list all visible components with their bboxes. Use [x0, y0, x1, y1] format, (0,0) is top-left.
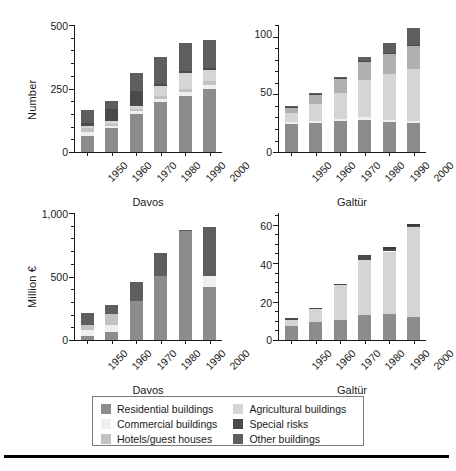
ytick-mark-davos-million-euro-400: [71, 289, 74, 290]
bar-segment-davos-million-euro-1950-other-buildings: [81, 313, 94, 324]
ytick-mark-davos-number-250: [69, 89, 74, 90]
xtick-mark-davos-million-euro-2000: [210, 341, 211, 344]
bar-galtuer-million-euro-1980: [358, 213, 371, 340]
bar-segment-davos-number-2000-hotels-guest-houses: [203, 81, 216, 85]
bar-segment-galtuer-million-euro-1990-special-risks: [383, 249, 396, 251]
bar-segment-galtuer-number-1980-residential-buildings: [358, 120, 371, 152]
bottom-rule: [4, 455, 449, 458]
xtick-davos-number-1960: 1960: [129, 159, 154, 184]
panel-davos-million-euro: Million € 1,000 500 0 Davos 195019601970…: [0, 190, 226, 380]
bar-davos-number-2000: [203, 25, 216, 152]
bar-segment-davos-number-1980-hotels-guest-houses: [154, 96, 167, 99]
legend-item-hotels: Hotels/guest houses: [101, 433, 217, 445]
bar-segment-galtuer-number-2000-residential-buildings: [407, 123, 420, 152]
bar-segment-davos-million-euro-1990-other-buildings: [179, 230, 192, 232]
bar-davos-million-euro-1950: [81, 213, 94, 340]
bar-segment-galtuer-million-euro-1950-residential-buildings: [285, 326, 298, 340]
xtick-galtuer-million-euro-1990: 1990: [406, 347, 431, 372]
bar-galtuer-number-2000: [407, 25, 420, 152]
ytick-mark-galtuer-million-euro-0: [273, 340, 278, 341]
ytick-mark-galtuer-number-90: [275, 48, 278, 49]
ytick-mark-galtuer-million-euro-15: [275, 311, 278, 312]
ytick-mark-davos-million-euro-1000: [69, 213, 74, 214]
bar-davos-million-euro-2000: [203, 213, 216, 340]
xtick-mark-galtuer-million-euro-1960: [316, 341, 317, 344]
xtick-mark-davos-million-euro-1960: [112, 341, 113, 344]
bar-segment-davos-number-1970-special-risks: [130, 91, 143, 106]
legend-swatch-hotels-icon: [101, 434, 111, 444]
bar-segment-galtuer-million-euro-2000-hotels-guest-houses: [407, 227, 420, 316]
panel-galtuer-number: 100 50 0 Galtür 195019601970198019902000: [226, 0, 453, 190]
bar-segment-galtuer-number-2000-special-risks: [407, 45, 420, 46]
bar-davos-number-1990: [179, 25, 192, 152]
bar-segment-galtuer-number-1980-other-buildings: [358, 57, 371, 60]
ytick-mark-galtuer-number-70: [275, 71, 278, 72]
bar-segment-davos-number-2000-agricultural-buildings: [203, 70, 216, 82]
bar-galtuer-number-1950: [285, 25, 298, 152]
bar-davos-number-1980: [154, 25, 167, 152]
bar-segment-davos-number-1980-agricultural-buildings: [154, 86, 167, 96]
legend-label-agricultural: Agricultural buildings: [249, 403, 346, 415]
ytick-mark-galtuer-number-60: [275, 83, 278, 84]
xtick-mark-davos-million-euro-1990: [185, 341, 186, 344]
ytick-davos-million-1000: 1,000: [16, 209, 68, 220]
bar-segment-galtuer-number-1970-special-risks: [334, 78, 347, 79]
xtick-mark-davos-million-euro-1950: [87, 341, 88, 344]
bar-segment-galtuer-number-1950-agricultural-buildings: [285, 108, 298, 113]
bar-segment-galtuer-number-1950-hotels-guest-houses: [285, 113, 298, 122]
bar-segment-galtuer-number-1980-commercial-buildings: [358, 117, 371, 119]
ytick-galtuer-million-20: 20: [232, 298, 272, 309]
legend-label-other: Other buildings: [249, 433, 320, 445]
plot-area-galtuer-number: [279, 25, 426, 152]
bar-segment-davos-million-euro-1960-other-buildings: [105, 305, 118, 314]
bar-segment-davos-number-1980-commercial-buildings: [154, 99, 167, 102]
ytick-davos-million-500: 500: [16, 272, 68, 283]
bar-segment-galtuer-number-1950-commercial-buildings: [285, 122, 298, 124]
plot-area-davos-million-euro: [75, 213, 222, 340]
bar-segment-davos-number-1960-commercial-buildings: [105, 126, 118, 128]
ytick-mark-davos-number-400: [71, 50, 74, 51]
bar-segment-davos-number-1970-commercial-buildings: [130, 111, 143, 114]
ytick-mark-galtuer-million-euro-10: [275, 321, 278, 322]
ytick-mark-davos-million-euro-0: [69, 340, 74, 341]
bar-segment-galtuer-number-1970-commercial-buildings: [334, 119, 347, 121]
legend-item-agricultural: Agricultural buildings: [233, 403, 346, 415]
bar-segment-galtuer-number-1960-other-buildings: [309, 93, 322, 94]
bar-segment-galtuer-million-euro-1970-special-risks: [334, 284, 347, 285]
bar-segment-davos-number-1990-agricultural-buildings: [179, 73, 192, 89]
ytick-davos-million-0: 0: [16, 335, 68, 346]
ytick-galtuer-million-60: 60: [232, 221, 272, 232]
bar-segment-galtuer-number-1990-commercial-buildings: [383, 120, 396, 122]
ytick-davos-number-0: 0: [28, 147, 68, 158]
bar-segment-davos-number-1970-hotels-guest-houses: [130, 109, 143, 112]
bar-segment-davos-million-euro-1980-residential-buildings: [154, 276, 167, 340]
bar-segment-davos-number-1990-other-buildings: [179, 43, 192, 71]
ytick-mark-galtuer-million-euro-55: [275, 234, 278, 235]
xtick-davos-million-euro-1970: 1970: [153, 347, 178, 372]
ytick-mark-davos-million-euro-700: [71, 251, 74, 252]
xtick-galtuer-number-1950: 1950: [308, 159, 333, 184]
bar-segment-davos-number-1950-commercial-buildings: [81, 132, 94, 136]
bar-segment-galtuer-number-1970-hotels-guest-houses: [334, 93, 347, 118]
bar-segment-galtuer-million-euro-1990-hotels-guest-houses: [383, 252, 396, 315]
xtick-mark-galtuer-number-1990: [389, 153, 390, 156]
bar-segment-davos-number-1950-other-buildings: [81, 110, 94, 123]
axis-line-x-galtuer-number: [278, 152, 426, 153]
xtick-mark-galtuer-million-euro-1950: [291, 341, 292, 344]
legend-items: Residential buildings Agricultural build…: [101, 403, 346, 445]
bar-galtuer-number-1990: [383, 25, 396, 152]
ytick-mark-galtuer-million-euro-35: [275, 273, 278, 274]
ytick-mark-galtuer-number-110: [275, 25, 278, 26]
bar-segment-davos-million-euro-1960-residential-buildings: [105, 332, 118, 340]
xtick-mark-galtuer-number-1980: [365, 153, 366, 156]
bar-segment-galtuer-number-1950-other-buildings: [285, 106, 298, 107]
ytick-mark-davos-number-50: [71, 139, 74, 140]
bar-segment-galtuer-number-1970-other-buildings: [334, 77, 347, 78]
ytick-mark-davos-number-100: [71, 127, 74, 128]
bar-segment-davos-number-1960-special-risks: [105, 109, 118, 121]
xtick-galtuer-million-euro-1960: 1960: [333, 347, 358, 372]
bar-segment-galtuer-million-euro-1990-residential-buildings: [383, 314, 396, 340]
bar-segment-galtuer-number-2000-agricultural-buildings: [407, 46, 420, 69]
plot-area-galtuer-million-euro: [279, 213, 426, 340]
